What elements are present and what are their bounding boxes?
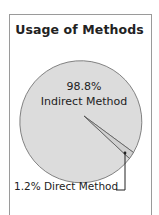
direct-label: 1.2% Direct Method [14,180,118,192]
indirect-label: 98.8% Indirect Method [22,79,146,109]
indirect-name: Indirect Method [22,94,146,109]
indirect-percent: 98.8% [22,79,146,94]
